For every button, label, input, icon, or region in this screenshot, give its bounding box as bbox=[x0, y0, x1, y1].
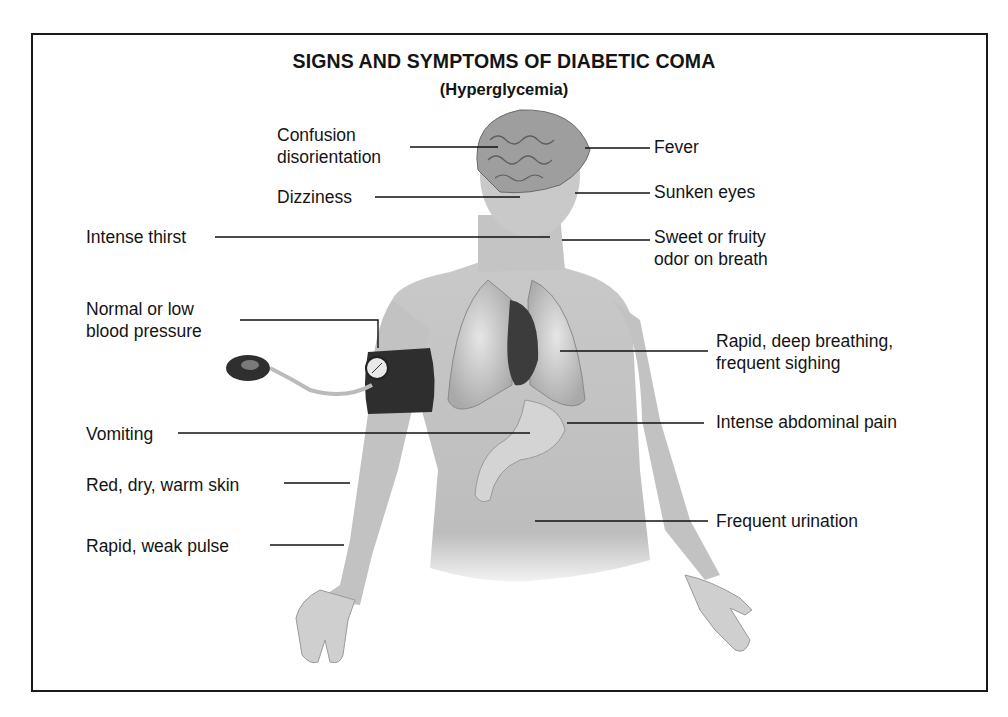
left-hand-shape bbox=[296, 590, 355, 663]
label-confusion: Confusion disorientation bbox=[277, 124, 381, 168]
diagram-subtitle: (Hyperglycemia) bbox=[0, 80, 1008, 99]
label-line: Sweet or fruity bbox=[654, 226, 768, 248]
label-sunken-eyes: Sunken eyes bbox=[654, 181, 755, 203]
bp-tube-shape bbox=[270, 368, 372, 394]
label-line: odor on breath bbox=[654, 248, 768, 270]
label-line: disorientation bbox=[277, 146, 381, 168]
label-line: blood pressure bbox=[86, 320, 202, 342]
label-urination: Frequent urination bbox=[716, 510, 858, 532]
label-vomiting: Vomiting bbox=[86, 423, 153, 445]
label-line: frequent sighing bbox=[716, 352, 893, 374]
label-dizziness: Dizziness bbox=[277, 186, 352, 208]
label-line: Confusion bbox=[277, 124, 381, 146]
label-line: Rapid, deep breathing, bbox=[716, 330, 893, 352]
label-fever: Fever bbox=[654, 136, 699, 158]
label-pulse: Rapid, weak pulse bbox=[86, 535, 229, 557]
label-breathing: Rapid, deep breathing, frequent sighing bbox=[716, 330, 893, 374]
right-hand-shape bbox=[685, 575, 752, 651]
left-arm-shape bbox=[318, 300, 430, 605]
label-intense-thirst: Intense thirst bbox=[86, 226, 186, 248]
label-line: Normal or low bbox=[86, 298, 202, 320]
label-skin: Red, dry, warm skin bbox=[86, 474, 239, 496]
label-abdominal-pain: Intense abdominal pain bbox=[716, 411, 897, 433]
label-breath-odor: Sweet or fruity odor on breath bbox=[654, 226, 768, 270]
label-blood-pressure: Normal or low blood pressure bbox=[86, 298, 202, 342]
diagram-title: SIGNS AND SYMPTOMS OF DIABETIC COMA bbox=[0, 50, 1008, 73]
